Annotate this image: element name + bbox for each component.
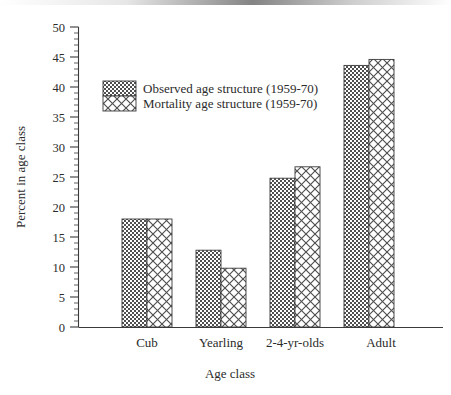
bar-mortality-adult <box>369 59 394 327</box>
bar-observed-cub <box>122 219 147 327</box>
legend-label-observed: Observed age structure (1959-70) <box>143 81 318 96</box>
y-tick-label: 25 <box>53 171 66 185</box>
legend-label-mortality: Mortality age structure (1959-70) <box>143 96 317 111</box>
bar-mortality-yearling <box>221 268 246 327</box>
y-tick-label: 10 <box>53 261 66 275</box>
bar-mortality-2-4-yr-olds <box>295 167 320 327</box>
x-tick-label-2-4-yr-olds: 2-4-yr-olds <box>266 335 324 350</box>
x-tick-label-adult: Adult <box>366 335 396 350</box>
x-axis-title: Age class <box>205 366 255 381</box>
y-tick-label: 45 <box>53 51 66 65</box>
bar-group-cub <box>122 219 172 327</box>
y-tick-label: 0 <box>59 321 65 335</box>
bar-mortality-cub <box>147 219 172 327</box>
y-tick-label: 50 <box>53 21 66 35</box>
bar-observed-2-4-yr-olds <box>270 178 295 327</box>
y-tick-label: 5 <box>59 291 65 305</box>
bar-observed-yearling <box>196 250 221 327</box>
x-tick-labels: Cub Yearling 2-4-yr-olds Adult <box>136 335 396 350</box>
legend-swatch-mortality <box>103 96 136 111</box>
bar-chart: 50 45 40 35 30 25 20 15 10 5 0 <box>0 0 451 395</box>
y-tick-label: 20 <box>53 201 66 215</box>
y-tick-labels: 50 45 40 35 30 25 20 15 10 5 0 <box>53 21 66 335</box>
y-tick-label: 30 <box>53 141 66 155</box>
bar-observed-adult <box>344 65 369 327</box>
bar-group-2-4-yr-olds <box>270 167 320 327</box>
bar-group-yearling <box>196 250 246 327</box>
legend: Observed age structure (1959-70) Mortali… <box>103 81 318 111</box>
x-tick-label-cub: Cub <box>136 335 158 350</box>
y-axis-title: Percent in age class <box>13 126 28 228</box>
y-tick-marks <box>70 27 79 327</box>
chart-page: 50 45 40 35 30 25 20 15 10 5 0 <box>0 0 451 395</box>
y-tick-label: 35 <box>53 111 66 125</box>
y-tick-label: 15 <box>53 231 66 245</box>
y-tick-label: 40 <box>53 81 66 95</box>
legend-swatch-observed <box>103 81 136 96</box>
bar-group-adult <box>344 59 394 327</box>
x-tick-label-yearling: Yearling <box>199 335 244 350</box>
